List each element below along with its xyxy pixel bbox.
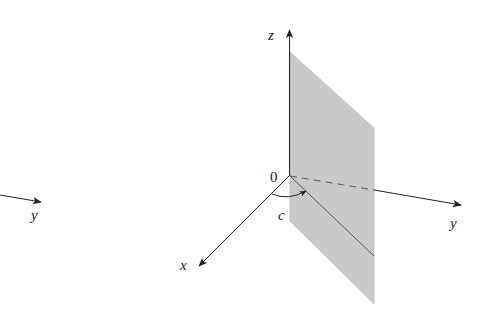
x-axis-label: x xyxy=(179,257,187,273)
left-fragment: y xyxy=(0,195,41,223)
origin-label: 0 xyxy=(270,169,278,185)
z-axis-label: z xyxy=(267,27,274,43)
left-y-axis xyxy=(0,195,41,202)
angle-label: c xyxy=(278,207,285,223)
left-y-axis-label: y xyxy=(29,207,38,223)
y-axis-label: y xyxy=(448,215,457,231)
main-diagram: z 0 c x y xyxy=(179,27,461,304)
y-axis xyxy=(374,190,461,205)
diagram-canvas: y z 0 c x y xyxy=(0,0,482,321)
x-axis xyxy=(199,176,289,266)
